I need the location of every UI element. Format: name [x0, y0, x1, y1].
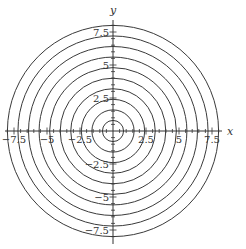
x-tick-label: 2.5 — [138, 134, 154, 145]
y-tick-label: 7.5 — [93, 27, 109, 38]
x-tick-label: −5 — [40, 134, 55, 145]
x-tick-label: 5 — [176, 134, 182, 145]
x-tick-label: −2.5 — [68, 134, 92, 145]
y-tick-label: −2.5 — [85, 159, 109, 170]
y-tick-label: 5 — [103, 60, 109, 71]
y-axis-label: y — [109, 4, 117, 17]
x-axis-label: x — [227, 125, 234, 138]
x-tick-label: −7.5 — [2, 134, 26, 145]
concentric-circles-plot: x y −7.5−5−2.52.557.5−7.5−5−2.52.557.5 — [0, 0, 246, 249]
x-tick-label: 7.5 — [204, 134, 220, 145]
y-tick-label: 2.5 — [93, 93, 109, 104]
y-tick-label: −7.5 — [85, 225, 109, 236]
y-tick-label: −5 — [94, 192, 109, 203]
